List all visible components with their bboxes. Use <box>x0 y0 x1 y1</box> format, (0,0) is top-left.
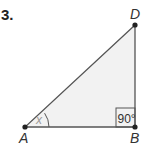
triangle-diagram: A B D 90° x <box>0 0 155 157</box>
label-b: B <box>130 130 139 146</box>
label-d: D <box>130 6 140 22</box>
point-d <box>132 22 137 27</box>
angle-x-label: x <box>35 113 43 127</box>
right-angle-label: 90° <box>118 112 136 126</box>
point-a <box>22 124 27 129</box>
label-a: A <box>18 130 28 146</box>
